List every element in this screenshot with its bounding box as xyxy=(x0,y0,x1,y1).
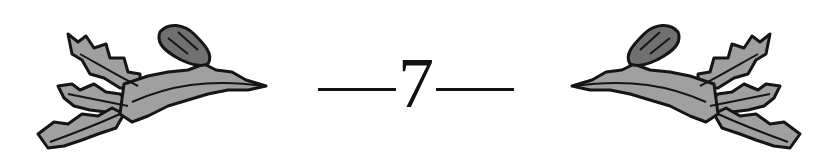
leaf-ornament-right-icon xyxy=(560,14,810,159)
chapter-number: 7 xyxy=(398,47,434,119)
right-rule xyxy=(436,88,514,91)
leaf-ornament-left-icon xyxy=(28,14,278,159)
chapter-heading: 7 xyxy=(318,38,514,128)
left-rule xyxy=(318,88,396,91)
